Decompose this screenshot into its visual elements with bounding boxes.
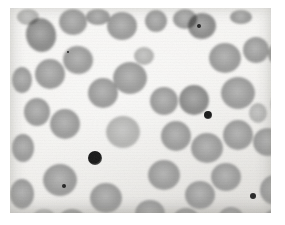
erythrocyte [50,109,80,139]
erythrocyte [221,77,255,109]
erythrocyte [150,87,178,115]
erythrocyte [211,163,241,191]
erythrocyte [135,200,165,213]
erythrocyte [12,67,32,93]
debris-speck [197,24,201,28]
erythrocyte [86,9,110,25]
erythrocyte [113,62,147,94]
erythrocyte [106,116,140,148]
erythrocyte [249,103,267,123]
platelet [88,151,102,165]
erythrocyte [253,128,271,156]
debris-speck [62,184,66,188]
erythrocyte [260,175,271,205]
erythrocyte [24,98,50,126]
erythrocyte [88,78,118,108]
erythrocyte [58,8,88,36]
erythrocyte [172,208,200,213]
optical-blur-layer [10,8,271,213]
erythrocyte [12,134,34,162]
erythrocyte [263,209,271,213]
erythrocyte [179,85,209,115]
erythrocyte [223,120,253,150]
erythrocyte [43,164,77,196]
debris-speck [250,193,256,199]
erythrocyte [243,37,269,63]
erythrocyte [33,209,55,213]
erythrocyte [58,209,86,213]
erythrocyte [148,160,180,190]
erythrocyte [161,121,191,151]
erythrocyte [209,43,241,73]
erythrocyte [191,133,223,163]
erythrocyte [230,10,252,24]
erythrocyte [90,183,122,213]
erythrocyte [145,10,167,32]
blood-smear-field [10,8,271,213]
debris-speck [67,51,69,53]
erythrocyte [218,207,244,213]
erythrocyte [107,12,137,40]
erythrocyte [17,9,39,25]
erythrocyte [134,47,154,65]
platelet [204,111,212,119]
micrograph-viewer [0,0,285,225]
erythrocyte [35,59,65,89]
erythrocyte [10,179,34,209]
erythrocyte [61,44,95,77]
erythrocyte [185,181,215,209]
